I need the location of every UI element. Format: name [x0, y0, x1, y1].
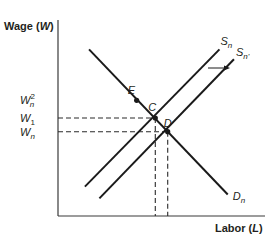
y-tick-sub: n — [30, 100, 35, 109]
curve-label-base: D — [233, 190, 241, 202]
curve-label-sub: n' — [243, 52, 249, 61]
y-tick-sub: 1 — [30, 118, 35, 127]
point-e — [134, 98, 139, 103]
y-axis-label-text: Wage ( — [4, 20, 40, 32]
curve-dn — [89, 49, 228, 194]
y-tick-label-0: W2n — [20, 92, 35, 109]
x-axis-label-text: Labor ( — [215, 222, 253, 234]
curve-label-sub: n — [228, 41, 233, 50]
curve-label-sn-prime: Sn' — [236, 46, 250, 61]
point-label-c: C — [148, 101, 156, 113]
y-tick-sub: n — [30, 132, 35, 141]
y-tick-label-2: Wn — [20, 126, 35, 141]
x-axis-label-close: ) — [259, 222, 263, 234]
curve-label-dn: Dn — [233, 190, 246, 205]
x-axis-label: Labor (L) — [215, 222, 263, 234]
point-d — [165, 129, 170, 134]
point-label-d: D — [164, 117, 172, 129]
curve-label-sub: n — [241, 196, 246, 205]
y-axis-label: Wage (W) — [4, 20, 54, 32]
y-axis-label-close: ) — [50, 20, 54, 32]
curve-label-sn: Sn — [220, 35, 232, 50]
labor-market-chart: Wage (W) Labor (L) ECD W2nW1Wn DnSnSn' — [0, 0, 275, 246]
point-label-e: E — [128, 84, 136, 96]
point-c — [153, 115, 158, 120]
